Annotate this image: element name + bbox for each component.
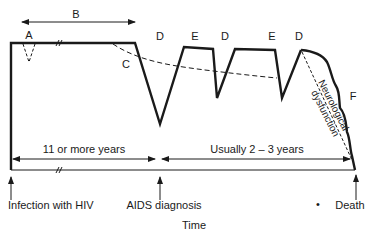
x-axis-label: Time <box>182 219 206 231</box>
label-d2: D <box>221 30 229 42</box>
label-f: F <box>350 90 357 102</box>
label-d3: D <box>295 30 303 42</box>
hiv-progression-diagram: B A C Neurological dysfunction D E D E D… <box>0 0 370 243</box>
label-a: A <box>25 29 33 41</box>
label-b: B <box>72 8 79 20</box>
label-e1: E <box>191 30 198 42</box>
label-e2: E <box>268 30 275 42</box>
neuro-label: Neurological dysfunction <box>306 78 351 138</box>
second-period-label: Usually 2 – 3 years <box>210 143 304 155</box>
label-c: C <box>122 58 130 70</box>
event-aids-diagnosis: AIDS diagnosis <box>126 199 202 211</box>
label-d1: D <box>156 30 164 42</box>
bullet-mark: • <box>316 198 320 210</box>
first-period-label: 11 or more years <box>43 143 126 155</box>
dip-a <box>23 44 35 62</box>
event-infection: Infection with HIV <box>8 199 94 211</box>
event-death: Death <box>335 199 364 211</box>
